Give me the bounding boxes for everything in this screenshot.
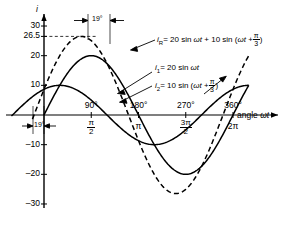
resultant-fraction: π3: [253, 32, 260, 48]
x-tick-fraction: 3π2: [180, 119, 192, 137]
annotation-resultant: iR= 20 sin ωt + 10 sin (ωt +π3): [157, 32, 262, 48]
annotation-i1: i1= 20 sin ωt: [155, 64, 199, 74]
x-tick-fraction: π2: [87, 119, 95, 137]
x-tick-label-deg: 360°: [221, 101, 245, 110]
resultant-var1: ωt: [194, 35, 202, 44]
y-tick-label: 30: [2, 21, 40, 30]
resultant-equals: = 20 sin: [163, 35, 191, 44]
resultant-frac-num: π: [253, 32, 260, 39]
y-tick-label: –10: [2, 140, 40, 149]
i1-equals: = 20 sin: [160, 63, 188, 72]
phase-marker-label-bottom: 19°: [34, 121, 45, 128]
resultant-close: ): [260, 35, 263, 44]
y-tick-label: –30: [2, 199, 40, 208]
resultant-var2: ωt: [237, 35, 245, 44]
annotation-i2: i2= 10 sin (ωt +π3): [155, 78, 218, 94]
x-tick-label-deg: 270°: [174, 101, 198, 110]
i2-close: ): [215, 81, 218, 90]
resultant-plus: + 10 sin (: [204, 35, 237, 44]
i2-fraction: π3: [209, 78, 216, 94]
y-tick-label: –20: [2, 169, 40, 178]
i1-var1: ωt: [191, 63, 199, 72]
x-tick-label-deg: 180°: [127, 101, 151, 110]
x-axis-title-text: angle: [237, 110, 258, 120]
phase-marker-label-top: 19°: [92, 15, 103, 22]
x-axis-title-var: ωt: [260, 110, 269, 120]
i2-frac-num: π: [209, 78, 216, 85]
x-tick-label-deg: 90°: [79, 101, 103, 110]
resultant-frac-den: 3: [253, 39, 260, 47]
x-axis-title: angle ωt: [237, 111, 269, 120]
x-tick-label-rad: π: [127, 122, 151, 131]
x-tick-label-rad: 2π: [221, 122, 245, 131]
y-tick-label: 26.5: [2, 31, 40, 40]
i2-frac-den: 3: [209, 85, 216, 93]
x-tick-label-rad: π2: [79, 119, 103, 137]
x-tick-label-rad: 3π2: [174, 119, 198, 137]
i2-var1: ωt: [193, 81, 201, 90]
y-axis-title: i: [36, 5, 38, 14]
i2-equals: = 10 sin (: [160, 81, 193, 90]
y-tick-label: 10: [2, 80, 40, 89]
y-tick-label: 20: [2, 51, 40, 60]
